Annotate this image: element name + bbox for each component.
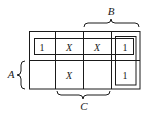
cell-r1-c1: X xyxy=(65,70,73,81)
karnaugh-map: 1 X X 1 X 1 B A C xyxy=(0,0,148,114)
label-b: B xyxy=(108,5,115,17)
brace-c xyxy=(57,91,110,99)
cell-r0-c1: X xyxy=(65,42,73,53)
label-c: C xyxy=(80,100,88,112)
brace-b xyxy=(84,19,139,27)
cell-r0-c3: 1 xyxy=(123,42,128,53)
cell-r0-c2: X xyxy=(93,42,101,53)
label-a: A xyxy=(7,68,15,80)
cell-r1-c3: 1 xyxy=(123,70,128,81)
cell-r0-c0: 1 xyxy=(40,42,45,53)
brace-a xyxy=(17,61,25,89)
